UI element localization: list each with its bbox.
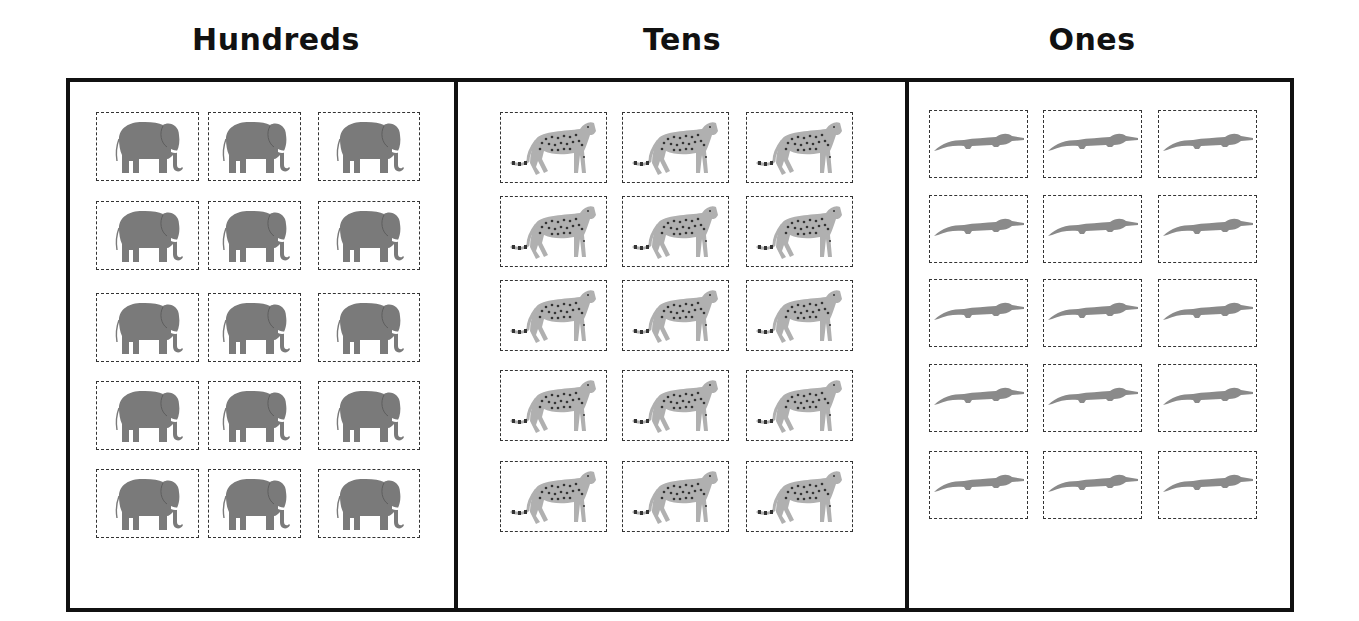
cheetah-icon (506, 375, 602, 437)
elephant-icon (109, 386, 187, 446)
cheetah-icon (752, 285, 848, 347)
ones-card (929, 195, 1028, 263)
crocodile-icon (1046, 129, 1140, 159)
tens-card (500, 280, 607, 351)
divider-hundreds-tens (454, 78, 458, 612)
tens-card (622, 370, 729, 441)
cheetah-icon (628, 375, 724, 437)
elephant-icon (109, 474, 187, 534)
cheetah-icon (628, 117, 724, 179)
crocodile-icon (1161, 298, 1255, 328)
elephant-icon (216, 298, 294, 358)
ones-card (929, 110, 1028, 178)
elephant-icon (216, 117, 294, 177)
crocodile-icon (932, 383, 1026, 413)
ones-card (1158, 195, 1257, 263)
hundreds-card (96, 381, 199, 450)
ones-card (1043, 110, 1142, 178)
hundreds-card (96, 112, 199, 181)
hundreds-card (318, 293, 420, 362)
ones-card (1043, 279, 1142, 347)
tens-card (746, 280, 853, 351)
ones-card (929, 364, 1028, 432)
cheetah-icon (506, 466, 602, 528)
divider-tens-ones (905, 78, 909, 612)
cheetah-icon (752, 466, 848, 528)
ones-card (1043, 451, 1142, 519)
hundreds-card (318, 201, 420, 270)
ones-card (929, 279, 1028, 347)
hundreds-card (318, 381, 420, 450)
crocodile-icon (1046, 298, 1140, 328)
elephant-icon (216, 386, 294, 446)
elephant-icon (330, 206, 408, 266)
hundreds-card (318, 112, 420, 181)
crocodile-icon (932, 470, 1026, 500)
tens-card (746, 196, 853, 267)
ones-card (1158, 364, 1257, 432)
cheetah-icon (506, 285, 602, 347)
heading-ones: Ones (992, 22, 1192, 57)
tens-card (746, 112, 853, 183)
elephant-icon (330, 386, 408, 446)
tens-card (746, 370, 853, 441)
hundreds-card (208, 469, 301, 538)
crocodile-icon (1046, 470, 1140, 500)
elephant-icon (216, 206, 294, 266)
heading-tens: Tens (582, 22, 782, 57)
elephant-icon (216, 474, 294, 534)
tens-card (622, 280, 729, 351)
ones-card (1158, 110, 1257, 178)
elephant-icon (330, 298, 408, 358)
cheetah-icon (628, 201, 724, 263)
ones-card (1158, 451, 1257, 519)
hundreds-card (208, 112, 301, 181)
elephant-icon (109, 117, 187, 177)
ones-card (1043, 364, 1142, 432)
crocodile-icon (932, 298, 1026, 328)
tens-card (500, 196, 607, 267)
crocodile-icon (1161, 214, 1255, 244)
tens-card (622, 461, 729, 532)
tens-card (500, 370, 607, 441)
crocodile-icon (1161, 470, 1255, 500)
ones-card (1043, 195, 1142, 263)
ones-card (929, 451, 1028, 519)
ones-card (1158, 279, 1257, 347)
crocodile-icon (1046, 214, 1140, 244)
cheetah-icon (506, 117, 602, 179)
cheetah-icon (628, 466, 724, 528)
crocodile-icon (932, 129, 1026, 159)
hundreds-card (96, 293, 199, 362)
cheetah-icon (752, 375, 848, 437)
hundreds-card (208, 381, 301, 450)
hundreds-card (96, 201, 199, 270)
cheetah-icon (506, 201, 602, 263)
elephant-icon (109, 206, 187, 266)
hundreds-card (96, 469, 199, 538)
hundreds-card (318, 469, 420, 538)
crocodile-icon (1161, 129, 1255, 159)
tens-card (500, 112, 607, 183)
elephant-icon (330, 474, 408, 534)
crocodile-icon (932, 214, 1026, 244)
tens-card (622, 112, 729, 183)
tens-card (746, 461, 853, 532)
tens-card (500, 461, 607, 532)
heading-hundreds: Hundreds (176, 22, 376, 57)
elephant-icon (109, 298, 187, 358)
crocodile-icon (1046, 383, 1140, 413)
cheetah-icon (628, 285, 724, 347)
tens-card (622, 196, 729, 267)
elephant-icon (330, 117, 408, 177)
hundreds-card (208, 201, 301, 270)
cheetah-icon (752, 117, 848, 179)
cheetah-icon (752, 201, 848, 263)
crocodile-icon (1161, 383, 1255, 413)
hundreds-card (208, 293, 301, 362)
